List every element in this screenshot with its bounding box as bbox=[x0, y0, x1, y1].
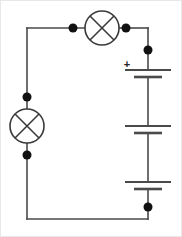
left-lamp-symbol bbox=[10, 109, 44, 143]
junction-dot-right-lower bbox=[144, 203, 153, 212]
junction-dot-left-above-lamp bbox=[23, 93, 32, 102]
circuit-diagram-figure: + bbox=[0, 0, 182, 237]
top-lamp-symbol bbox=[85, 11, 119, 45]
junction-dot-left-below-lamp bbox=[23, 151, 32, 160]
junction-dot-right-upper bbox=[144, 46, 153, 55]
junction-dot-top-left-of-lamp bbox=[69, 24, 78, 33]
junction-dot-top-right-of-lamp bbox=[122, 24, 131, 33]
battery-positive-polarity-label: + bbox=[124, 58, 130, 70]
circuit-diagram-canvas: + bbox=[0, 0, 182, 237]
